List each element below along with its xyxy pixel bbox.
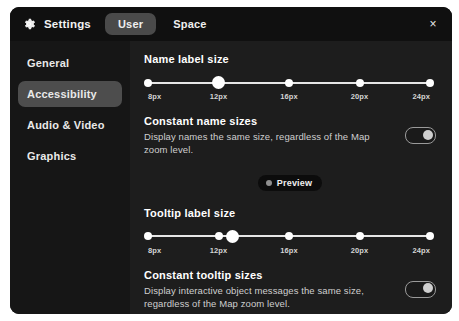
preview-row: Preview	[144, 175, 436, 191]
constant-name-sizes-toggle[interactable]	[405, 127, 436, 144]
sidebar-item-graphics[interactable]: Graphics	[18, 143, 122, 169]
slider-thumb[interactable]	[226, 230, 239, 243]
slider-tick-8px[interactable]	[144, 79, 152, 87]
settings-sidebar: General Accessibility Audio & Video Grap…	[10, 41, 130, 314]
constant-tooltip-sizes-row: Constant tooltip sizes Display interacti…	[144, 269, 436, 311]
slider-tick-12px[interactable]	[215, 232, 223, 240]
preview-button-label: Preview	[277, 178, 312, 188]
window-tabs: User Space	[105, 13, 220, 35]
constant-name-sizes-row: Constant name sizes Display names the sa…	[144, 115, 436, 157]
tooltip-label-size-slider[interactable]	[148, 231, 430, 242]
sidebar-item-audio-video[interactable]: Audio & Video	[18, 112, 122, 138]
tick-label-24px: 24px	[413, 92, 431, 101]
toggle-knob	[423, 130, 433, 140]
constant-name-sizes-label: Constant name sizes	[144, 115, 384, 127]
tick-label-8px: 8px	[148, 246, 161, 255]
preview-dot-icon	[266, 180, 272, 186]
tick-label-20px: 20px	[351, 92, 369, 101]
slider-tick-16px[interactable]	[285, 79, 293, 87]
constant-name-sizes-description: Display names the same size, regardless …	[144, 130, 384, 157]
constant-tooltip-sizes-description: Display interactive object messages the …	[144, 284, 384, 311]
window-body: General Accessibility Audio & Video Grap…	[10, 41, 452, 314]
name-label-size-section: Name label size 8px 12px 16px 20px 24px	[144, 53, 436, 105]
tab-user[interactable]: User	[105, 13, 156, 35]
slider-tick-8px[interactable]	[144, 232, 152, 240]
name-label-size-title: Name label size	[144, 53, 436, 65]
name-label-size-ticks: 8px 12px 16px 20px 24px	[148, 92, 430, 105]
app-title: Settings	[44, 18, 91, 30]
constant-tooltip-sizes-toggle[interactable]	[405, 281, 436, 298]
slider-tick-24px[interactable]	[426, 79, 434, 87]
preview-button[interactable]: Preview	[258, 175, 322, 191]
settings-window: Settings User Space × General Accessibil…	[10, 7, 452, 314]
slider-tick-16px[interactable]	[285, 232, 293, 240]
sidebar-item-accessibility[interactable]: Accessibility	[18, 81, 122, 107]
sidebar-item-general[interactable]: General	[18, 50, 122, 76]
tick-label-12px: 12px	[210, 246, 228, 255]
tick-label-8px: 8px	[148, 92, 161, 101]
tick-label-12px: 12px	[210, 92, 228, 101]
tick-label-16px: 16px	[280, 92, 298, 101]
name-label-size-slider[interactable]	[148, 77, 430, 88]
tab-space[interactable]: Space	[160, 13, 219, 35]
tooltip-label-size-title: Tooltip label size	[144, 207, 436, 219]
tick-label-16px: 16px	[280, 246, 298, 255]
constant-name-sizes-text: Constant name sizes Display names the sa…	[144, 115, 384, 157]
slider-tick-24px[interactable]	[426, 232, 434, 240]
window-titlebar: Settings User Space ×	[10, 7, 452, 41]
tick-label-24px: 24px	[413, 246, 431, 255]
tick-label-20px: 20px	[351, 246, 369, 255]
tooltip-label-size-ticks: 8px 12px 16px 20px 24px	[148, 246, 430, 259]
slider-tick-20px[interactable]	[356, 79, 364, 87]
tooltip-label-size-section: Tooltip label size 8px 12px 16px 20px 24…	[144, 207, 436, 259]
gear-icon	[22, 17, 36, 31]
settings-content: Name label size 8px 12px 16px 20px 24px	[130, 41, 452, 314]
slider-tick-20px[interactable]	[356, 232, 364, 240]
constant-tooltip-sizes-label: Constant tooltip sizes	[144, 269, 384, 281]
slider-thumb[interactable]	[212, 76, 225, 89]
close-icon[interactable]: ×	[425, 16, 441, 32]
toggle-knob	[423, 283, 433, 293]
constant-tooltip-sizes-text: Constant tooltip sizes Display interacti…	[144, 269, 384, 311]
